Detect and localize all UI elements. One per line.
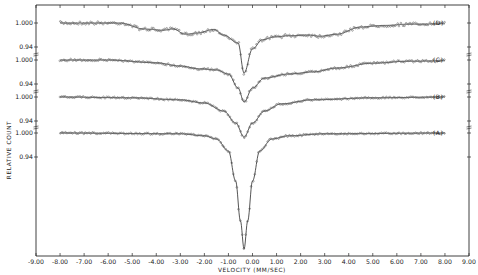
x-tick-label: -1.00 (220, 258, 236, 265)
y-tick-label: 0.94 (19, 80, 33, 87)
plot-frame (36, 5, 469, 256)
series-c: (C) (59, 56, 445, 102)
y-tick-label: 1.000 (15, 93, 33, 100)
x-axis-ticks: -9.00-8.00-7.00-6.00-5.00-4.00-3.00-2.00… (28, 5, 476, 265)
y-tick-label: 1.000 (15, 19, 33, 26)
y-tick-label: 0.94 (19, 117, 33, 124)
spectra-curves: (D)(C)(B)(A) (59, 19, 445, 250)
x-tick-label: 2.00 (294, 258, 308, 265)
x-tick-label: 9.00 (462, 258, 476, 265)
series-a: (A) (59, 129, 445, 250)
y-axis-title: RELATIVE COUNT (6, 121, 12, 179)
mossbauer-spectra-chart: -9.00-8.00-7.00-6.00-5.00-4.00-3.00-2.00… (0, 0, 478, 275)
y-tick-label: 0.94 (19, 43, 33, 50)
series-b: (B) (59, 93, 445, 139)
y-tick-label: 1.000 (15, 56, 33, 63)
x-tick-label: 1.00 (270, 258, 284, 265)
x-tick-label: 8.00 (438, 258, 452, 265)
x-tick-label: -5.00 (124, 258, 140, 265)
series-label-c: (C) (433, 56, 443, 63)
series-label-b: (B) (433, 93, 443, 100)
x-tick-label: -2.00 (196, 258, 212, 265)
x-axis-title: VELOCITY (MM/SEC) (218, 267, 286, 273)
x-tick-label: -6.00 (100, 258, 116, 265)
x-tick-label: -4.00 (148, 258, 164, 265)
x-tick-label: 3.00 (318, 258, 332, 265)
x-tick-label: 6.00 (390, 258, 404, 265)
x-tick-label: 5.00 (366, 258, 380, 265)
x-tick-label: -8.00 (52, 258, 68, 265)
series-label-d: (D) (433, 19, 444, 26)
y-tick-label: 0.94 (19, 153, 33, 160)
x-tick-label: 7.00 (414, 258, 428, 265)
x-tick-label: -7.00 (76, 258, 92, 265)
x-tick-label: -9.00 (28, 258, 44, 265)
x-tick-label: 4.00 (342, 258, 356, 265)
series-label-a: (A) (433, 129, 443, 136)
x-tick-label: 0.00 (246, 258, 260, 265)
y-axis-ticks: 1.0000.941.0000.941.0000.941.0000.94 (15, 19, 471, 160)
x-tick-label: -3.00 (172, 258, 188, 265)
series-d: (D) (59, 19, 445, 75)
y-tick-label: 1.000 (15, 129, 33, 136)
